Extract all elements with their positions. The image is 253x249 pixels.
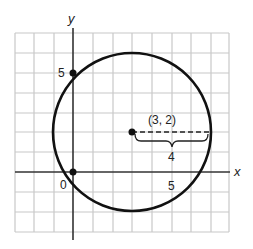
center-label: (3, 2) bbox=[148, 114, 176, 126]
x-axis-label: x bbox=[234, 165, 241, 178]
origin-point bbox=[70, 169, 77, 176]
x-tick-label: 5 bbox=[168, 180, 175, 192]
center-point bbox=[129, 129, 136, 136]
y-axis-label: y bbox=[68, 12, 75, 25]
coordinate-plane bbox=[0, 0, 253, 249]
axes bbox=[15, 28, 230, 240]
y-intercept-point bbox=[70, 70, 77, 77]
radius-label: 4 bbox=[168, 151, 175, 163]
origin-label: 0 bbox=[60, 179, 67, 191]
y-tick-label: 5 bbox=[58, 67, 65, 79]
